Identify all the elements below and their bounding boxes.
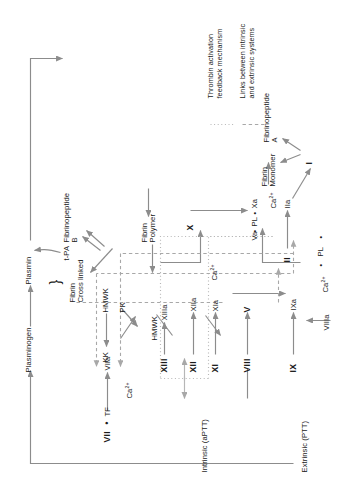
node-factor-viia: VIIa <box>103 356 111 370</box>
node-factor-xii: XII <box>188 361 196 372</box>
node-hmwk-top: HMWK <box>101 288 109 312</box>
node-plasminogen: Plasminogen <box>24 327 32 372</box>
connector-lines <box>0 0 337 498</box>
node-tenase-calcium: Ca2+ <box>318 276 330 292</box>
node-factor-iia: IIa <box>283 199 291 208</box>
legend-swatches <box>204 102 272 126</box>
node-tpa: t-PA <box>62 245 70 260</box>
node-tenase-dot-1: • <box>316 263 324 266</box>
brace-symbol: } <box>50 279 58 284</box>
node-factor-xi: XI <box>210 363 218 372</box>
node-tenase-pl: PL <box>316 247 324 257</box>
node-prothrombinase-calcium: Ca2+ <box>266 192 278 208</box>
label-intrinsic-pathway: Intrinsic (aPTT) <box>200 419 208 473</box>
legend-item-thrombin-feedback: Thrombin activation feedback mechanism <box>206 28 223 98</box>
legend-item-links: Links between intrinsic and extrinsic sy… <box>238 23 255 98</box>
node-factor-ii: II <box>282 257 290 262</box>
node-pk: PK <box>118 302 126 312</box>
node-factor-xa: Xa <box>250 199 258 209</box>
node-factor-viiia: VIIIa <box>322 314 330 330</box>
node-prothrombinase-pl: PL <box>250 217 258 227</box>
node-factor-viii: VIII <box>242 358 250 372</box>
node-fibrin-cross-linked: Fibrin Cross linked <box>68 259 85 302</box>
node-prothrombinase-dot-1: • <box>250 211 258 214</box>
node-factor-ix: IX <box>288 363 296 372</box>
node-factor-xia: XIa <box>211 299 219 311</box>
label-extrinsic-pathway: Extrinsic (PTT) <box>300 420 308 472</box>
node-fibrinogen: I <box>304 161 312 164</box>
node-factor-v: V <box>242 306 250 312</box>
rotated-diagram-layer: Intrinsic (aPTT) Extrinsic (PTT) Plasmin… <box>0 0 337 498</box>
node-tenase-dot-2: • <box>316 235 324 238</box>
node-hmwk-mid: HMWK <box>150 316 158 340</box>
diagram-canvas: Intrinsic (aPTT) Extrinsic (PTT) Plasmin… <box>0 0 337 498</box>
node-plasmin: Plasmin <box>24 256 32 284</box>
node-factor-x: X <box>185 224 193 230</box>
node-prothrombinase-dot-2: • <box>250 229 258 232</box>
node-factor-xiiia: XIIIa <box>160 304 168 320</box>
node-tissue-factor: TF <box>103 407 111 416</box>
node-calcium-xi: Ca2+ <box>207 264 219 280</box>
node-fibrinopeptide-b: Fibrinopeptide B <box>62 192 79 242</box>
node-fibrin-polymer: Fibrin Polymer <box>140 213 157 242</box>
node-factor-vii: VII <box>102 431 110 442</box>
node-factor-xiii: XIII <box>159 358 167 372</box>
node-factor-xiia: XIIa <box>189 297 197 311</box>
node-factor-ixa: IXa <box>289 298 297 310</box>
node-factor-vii-dot: • <box>102 421 110 424</box>
node-calcium-vii: Ca2+ <box>122 382 134 398</box>
node-fibrin-monomer: Fibrin Monomer <box>260 153 277 186</box>
